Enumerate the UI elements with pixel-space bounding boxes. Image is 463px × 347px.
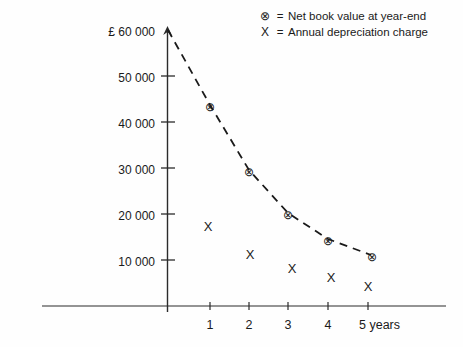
y-tick-label-60000: £ 60 000 xyxy=(60,25,155,39)
data-point-depreciation-year-1: X xyxy=(201,220,215,233)
x-tick-label-5-years: 5 years xyxy=(359,318,429,332)
x-tick-label-2: 2 xyxy=(233,318,265,332)
chart-legend: ⊗ = Net book value at year-end X = Annua… xyxy=(258,8,428,40)
y-tick-label-40000: 40 000 xyxy=(60,117,155,131)
data-point-depreciation-year-2: X xyxy=(243,248,257,261)
legend-equals-1: = xyxy=(272,24,288,40)
data-point-depreciation-year-4: X xyxy=(324,271,338,284)
cross-x-icon: X xyxy=(258,24,272,40)
x-tick-label-1: 1 xyxy=(194,318,226,332)
data-point-net-book-value-year-2: ⊗ xyxy=(242,166,256,178)
data-point-net-book-value-year-3: ⊗ xyxy=(281,209,295,221)
y-tick-label-50000: 50 000 xyxy=(60,71,155,85)
x-tick-label-3: 3 xyxy=(272,318,304,332)
data-point-net-book-value-year-1: ⊗ xyxy=(203,101,217,113)
data-point-depreciation-year-3: X xyxy=(285,262,299,275)
depreciation-chart: £ 60 000 50 000 40 000 30 000 20 000 10 … xyxy=(0,0,463,347)
legend-label-net-book-value: Net book value at year-end xyxy=(288,8,426,24)
legend-item-net-book-value: ⊗ = Net book value at year-end xyxy=(258,8,428,24)
x-tick-label-4: 4 xyxy=(312,318,344,332)
net-book-value-line xyxy=(168,30,371,255)
circled-x-icon: ⊗ xyxy=(258,8,272,24)
y-tick-label-10000: 10 000 xyxy=(60,255,155,269)
data-point-net-book-value-year-4: ⊗ xyxy=(321,235,335,247)
y-tick-label-20000: 20 000 xyxy=(60,209,155,223)
legend-label-depreciation-charge: Annual depreciation charge xyxy=(288,24,428,40)
data-point-depreciation-year-5: X xyxy=(361,280,375,293)
y-tick-label-30000: 30 000 xyxy=(60,163,155,177)
data-point-net-book-value-year-5: ⊗ xyxy=(365,251,379,263)
legend-item-depreciation-charge: X = Annual depreciation charge xyxy=(258,24,428,40)
legend-equals-0: = xyxy=(272,8,288,24)
